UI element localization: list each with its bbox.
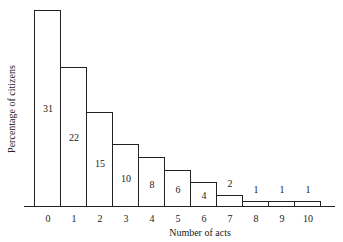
x-axis-line (24, 206, 335, 207)
x-tick-label: 1 (61, 214, 87, 224)
x-tick-label: 3 (113, 214, 139, 224)
bar-value-label: 2 (217, 179, 243, 189)
x-tick-label: 7 (217, 214, 243, 224)
bar-value-label: 15 (87, 159, 113, 169)
x-tick-label: 10 (295, 214, 321, 224)
x-tick-label: 4 (139, 214, 165, 224)
bar-value-label: 1 (243, 185, 269, 195)
x-tick-label: 2 (87, 214, 113, 224)
bar-value-label: 1 (295, 185, 321, 195)
bar-value-label: 8 (139, 180, 165, 190)
bar-value-label: 1 (269, 185, 295, 195)
x-tick-label: 0 (35, 214, 61, 224)
bar-value-label: 6 (165, 185, 191, 195)
x-tick-label: 9 (269, 214, 295, 224)
x-tick-label: 6 (191, 214, 217, 224)
histogram-chart: Percentage of citizens 312215108642111 0… (0, 0, 343, 242)
bar-value-label: 22 (61, 133, 87, 143)
bar-value-label: 4 (191, 191, 217, 201)
y-axis-label: Percentage of citizens (7, 64, 17, 154)
x-tick-label: 5 (165, 214, 191, 224)
x-axis-label: Number of acts (140, 228, 260, 238)
bar-value-label: 31 (35, 104, 61, 114)
x-tick-label: 8 (243, 214, 269, 224)
bar-value-label: 10 (113, 174, 139, 184)
